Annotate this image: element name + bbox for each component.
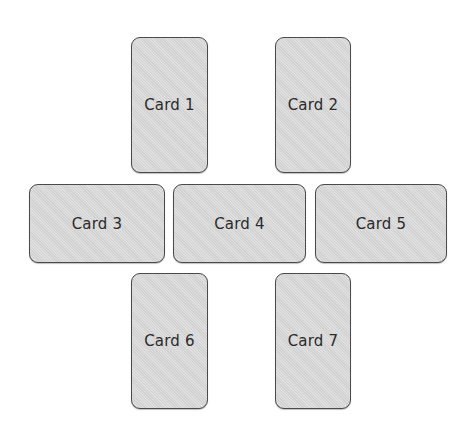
- card-5: Card 5: [315, 184, 447, 263]
- card-label: Card 7: [288, 332, 339, 350]
- card-2: Card 2: [275, 37, 351, 173]
- card-4: Card 4: [173, 184, 306, 263]
- card-label: Card 5: [356, 215, 407, 233]
- card-label: Card 6: [144, 332, 195, 350]
- card-6: Card 6: [131, 273, 208, 409]
- clipped-title-text: ▀▀ ▀ ▀▀ ▀▀▀▀▀▀▀▀ ▀▀▀▀▀ ▀▀▀▀▀ ▀ ▀▀▀▀▀: [70, 0, 415, 3]
- card-label: Card 1: [144, 96, 195, 114]
- card-7: Card 7: [275, 273, 351, 409]
- card-label: Card 4: [214, 215, 265, 233]
- card-label: Card 3: [72, 215, 123, 233]
- card-1: Card 1: [131, 37, 208, 173]
- card-label: Card 2: [288, 96, 339, 114]
- card-3: Card 3: [29, 184, 165, 263]
- clipped-title: ▀▀ ▀ ▀▀ ▀▀▀▀▀▀▀▀ ▀▀▀▀▀ ▀▀▀▀▀ ▀ ▀▀▀▀▀: [70, 0, 415, 3]
